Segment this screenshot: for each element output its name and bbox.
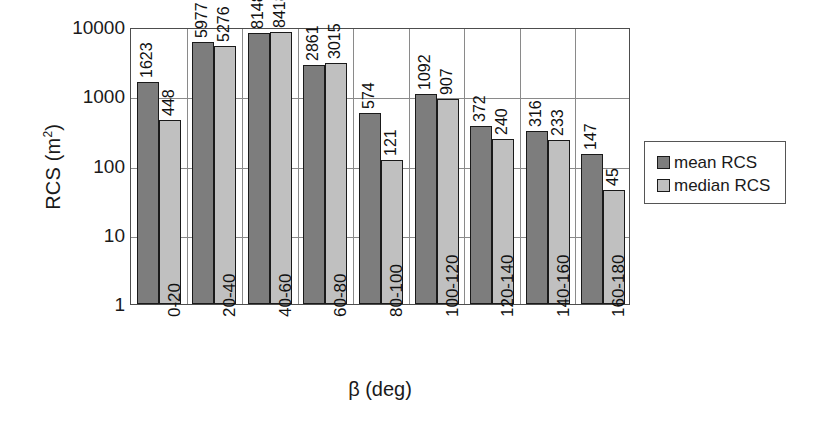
x-axis-tick-label: 20-40 xyxy=(221,274,238,317)
x-axis-title: β (deg) xyxy=(130,378,630,401)
bar-value-label: 907 xyxy=(439,68,455,95)
bar-value-label: 8148 xyxy=(250,0,266,29)
bar-mean-rcs xyxy=(470,126,492,304)
legend-swatch-icon xyxy=(657,179,670,192)
legend-item: mean RCS xyxy=(657,151,785,174)
bar-median-rcs xyxy=(214,46,236,304)
bar-group: 574121 xyxy=(353,29,409,304)
bar-mean-rcs xyxy=(303,65,325,304)
bar-value-label: 8418 xyxy=(272,0,288,28)
bar-group: 1623448 xyxy=(131,29,187,304)
bar-mean-rcs xyxy=(526,131,548,304)
x-axis-tick-label: 120-140 xyxy=(499,255,516,317)
legend-item: median RCS xyxy=(657,174,785,197)
bar-value-label: 5977 xyxy=(194,3,210,39)
x-axis-tick-label: 100-120 xyxy=(444,255,461,317)
bar-value-label: 121 xyxy=(383,129,399,156)
bar-mean-rcs xyxy=(248,33,270,304)
bar-mean-rcs xyxy=(137,82,159,304)
y-axis-tick-labels: 100001000100101 xyxy=(30,0,125,425)
y-axis-tick-label: 10000 xyxy=(35,18,125,37)
y-axis-tick-label: 100 xyxy=(35,157,125,176)
bar-value-label: 2861 xyxy=(305,25,321,61)
bar-mean-rcs xyxy=(415,94,437,304)
rcs-bar-chart: RCS (m2) 100001000100101 162344859775276… xyxy=(0,0,817,425)
bar-group: 81488418 xyxy=(242,29,298,304)
bar-median-rcs xyxy=(270,32,292,304)
bar-value-label: 240 xyxy=(494,108,510,135)
x-axis-tick-label: 40-60 xyxy=(277,274,294,317)
bar-value-label: 1092 xyxy=(417,54,433,90)
bar-value-label: 372 xyxy=(472,95,488,122)
bar-median-rcs xyxy=(159,120,181,304)
bar-value-label: 316 xyxy=(528,100,544,127)
bar-mean-rcs xyxy=(359,113,381,304)
x-axis-tick-label: 160-180 xyxy=(610,255,627,317)
y-axis-tick-label: 1000 xyxy=(35,87,125,106)
bar-value-label: 233 xyxy=(550,109,566,136)
y-axis-tick-label: 10 xyxy=(35,226,125,245)
y-axis-tick-label: 1 xyxy=(35,295,125,314)
x-axis-tick-label: 140-160 xyxy=(555,255,572,317)
legend-item-label: median RCS xyxy=(674,176,770,196)
bar-value-label: 1623 xyxy=(139,42,155,78)
bar-mean-rcs xyxy=(581,154,603,304)
x-axis-tick-label: 0-20 xyxy=(166,283,183,317)
chart-legend: mean RCSmedian RCS xyxy=(644,141,786,204)
x-axis-tick-label: 80-100 xyxy=(388,264,405,317)
bar-median-rcs xyxy=(325,63,347,304)
bar-group: 59775276 xyxy=(187,29,243,304)
bar-value-label: 574 xyxy=(361,82,377,109)
legend-item-label: mean RCS xyxy=(674,153,757,173)
bar-mean-rcs xyxy=(192,42,214,304)
bar-group: 28613015 xyxy=(298,29,354,304)
bar-value-label: 448 xyxy=(161,90,177,117)
bar-value-label: 147 xyxy=(583,123,599,150)
bar-value-label: 45 xyxy=(605,168,621,186)
bar-value-label: 3015 xyxy=(327,23,343,59)
bar-value-label: 5276 xyxy=(216,7,232,43)
x-axis-tick-label: 60-80 xyxy=(332,274,349,317)
legend-swatch-icon xyxy=(657,156,670,169)
